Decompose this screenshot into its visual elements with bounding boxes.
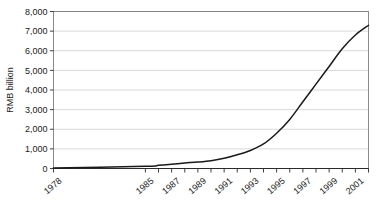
chart-canvas: 01,0002,0003,0004,0005,0006,0007,0008,00…: [0, 0, 385, 214]
y-tick-label-3000: 3,000: [25, 105, 48, 115]
y-tick-label-4000: 4,000: [25, 85, 48, 95]
x-tick-label-1995: 1995: [265, 176, 287, 197]
y-tick-label-6000: 6,000: [25, 46, 48, 56]
x-tick-label-1978: 1978: [42, 176, 64, 197]
x-tick-label-1993: 1993: [239, 176, 261, 197]
x-tick-label-1999: 1999: [317, 176, 339, 197]
y-tick-label-5000: 5,000: [25, 66, 48, 76]
x-tick-label-1989: 1989: [186, 176, 208, 197]
x-tick-label-1991: 1991: [212, 176, 234, 197]
y-tick-label-0: 0: [42, 164, 47, 174]
x-tick-label-1997: 1997: [291, 176, 313, 197]
y-tick-label-7000: 7,000: [25, 26, 48, 36]
y-tick-label-8000: 8,000: [25, 7, 48, 17]
gridlines: [54, 12, 369, 149]
y-axis-ticks: [50, 12, 54, 169]
y-axis-tick-labels: 01,0002,0003,0004,0005,0006,0007,0008,00…: [25, 7, 48, 174]
y-tick-label-2000: 2,000: [25, 124, 48, 134]
data-series-line: [54, 25, 369, 168]
y-axis-title: RMB billion: [5, 67, 15, 113]
x-tick-label-2001: 2001: [344, 176, 366, 197]
x-axis-tick-labels: 1978198519871989199119931995199719992001: [42, 176, 366, 197]
x-axis-ticks: [54, 169, 369, 173]
line-chart-figure: 01,0002,0003,0004,0005,0006,0007,0008,00…: [0, 0, 385, 214]
x-tick-label-1985: 1985: [134, 176, 156, 197]
y-tick-label-1000: 1,000: [25, 144, 48, 154]
x-tick-label-1987: 1987: [160, 176, 182, 197]
